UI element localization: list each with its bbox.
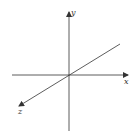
x-axis-label: x xyxy=(124,78,129,86)
z-axis-label: z xyxy=(18,108,22,116)
y-axis-label: y xyxy=(71,9,76,17)
